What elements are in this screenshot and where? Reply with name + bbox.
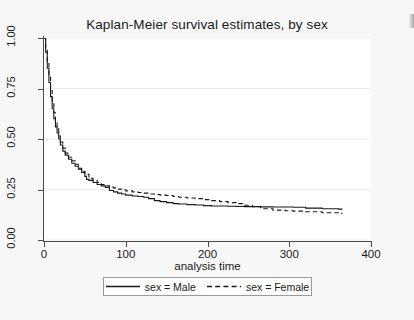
legend-label-female: sex = Female [246, 281, 309, 293]
plot-area [44, 38, 371, 240]
kaplan-meier-chart-figure: Kaplan-Meier survival estimates, by sex … [0, 0, 414, 320]
y-tick-mark [38, 190, 43, 191]
legend-entry-female: sex = Female [207, 281, 309, 293]
edge-artifact [409, 14, 414, 28]
legend-swatch-dashed-line [207, 283, 241, 290]
y-tick-mark [38, 139, 43, 140]
series-layer [44, 38, 342, 213]
series-line-female [44, 38, 342, 213]
legend-label-male: sex = Male [145, 281, 196, 293]
series-line-male [44, 38, 342, 209]
y-tick-label: 0.25 [5, 166, 17, 210]
y-tick-label: 0.75 [5, 65, 17, 109]
y-axis-line [43, 36, 44, 242]
x-tick-label: 300 [269, 248, 309, 260]
legend-swatch-solid-line [106, 283, 140, 290]
legend-entry-male: sex = Male [106, 281, 196, 293]
y-tick-label: 0.50 [5, 115, 17, 159]
x-tick-label: 100 [106, 248, 146, 260]
y-tick-mark [38, 240, 43, 241]
chart-title: Kaplan-Meier survival estimates, by sex [0, 17, 414, 32]
x-tick-mark [208, 242, 209, 247]
x-tick-mark [289, 242, 290, 247]
x-tick-label: 200 [188, 248, 228, 260]
x-tick-label: 400 [351, 248, 391, 260]
x-tick-mark [44, 242, 45, 247]
y-tick-label: 1.00 [5, 14, 17, 58]
y-tick-mark [38, 38, 43, 39]
chart-legend: sex = Male sex = Female [103, 277, 312, 296]
x-tick-mark [126, 242, 127, 247]
x-axis-title: analysis time [44, 260, 371, 272]
plot-svg [44, 38, 371, 240]
x-tick-mark [371, 242, 372, 247]
gridlines [44, 38, 371, 240]
x-tick-label: 0 [24, 248, 64, 260]
y-tick-label: 0.00 [5, 216, 17, 260]
y-tick-mark [38, 89, 43, 90]
